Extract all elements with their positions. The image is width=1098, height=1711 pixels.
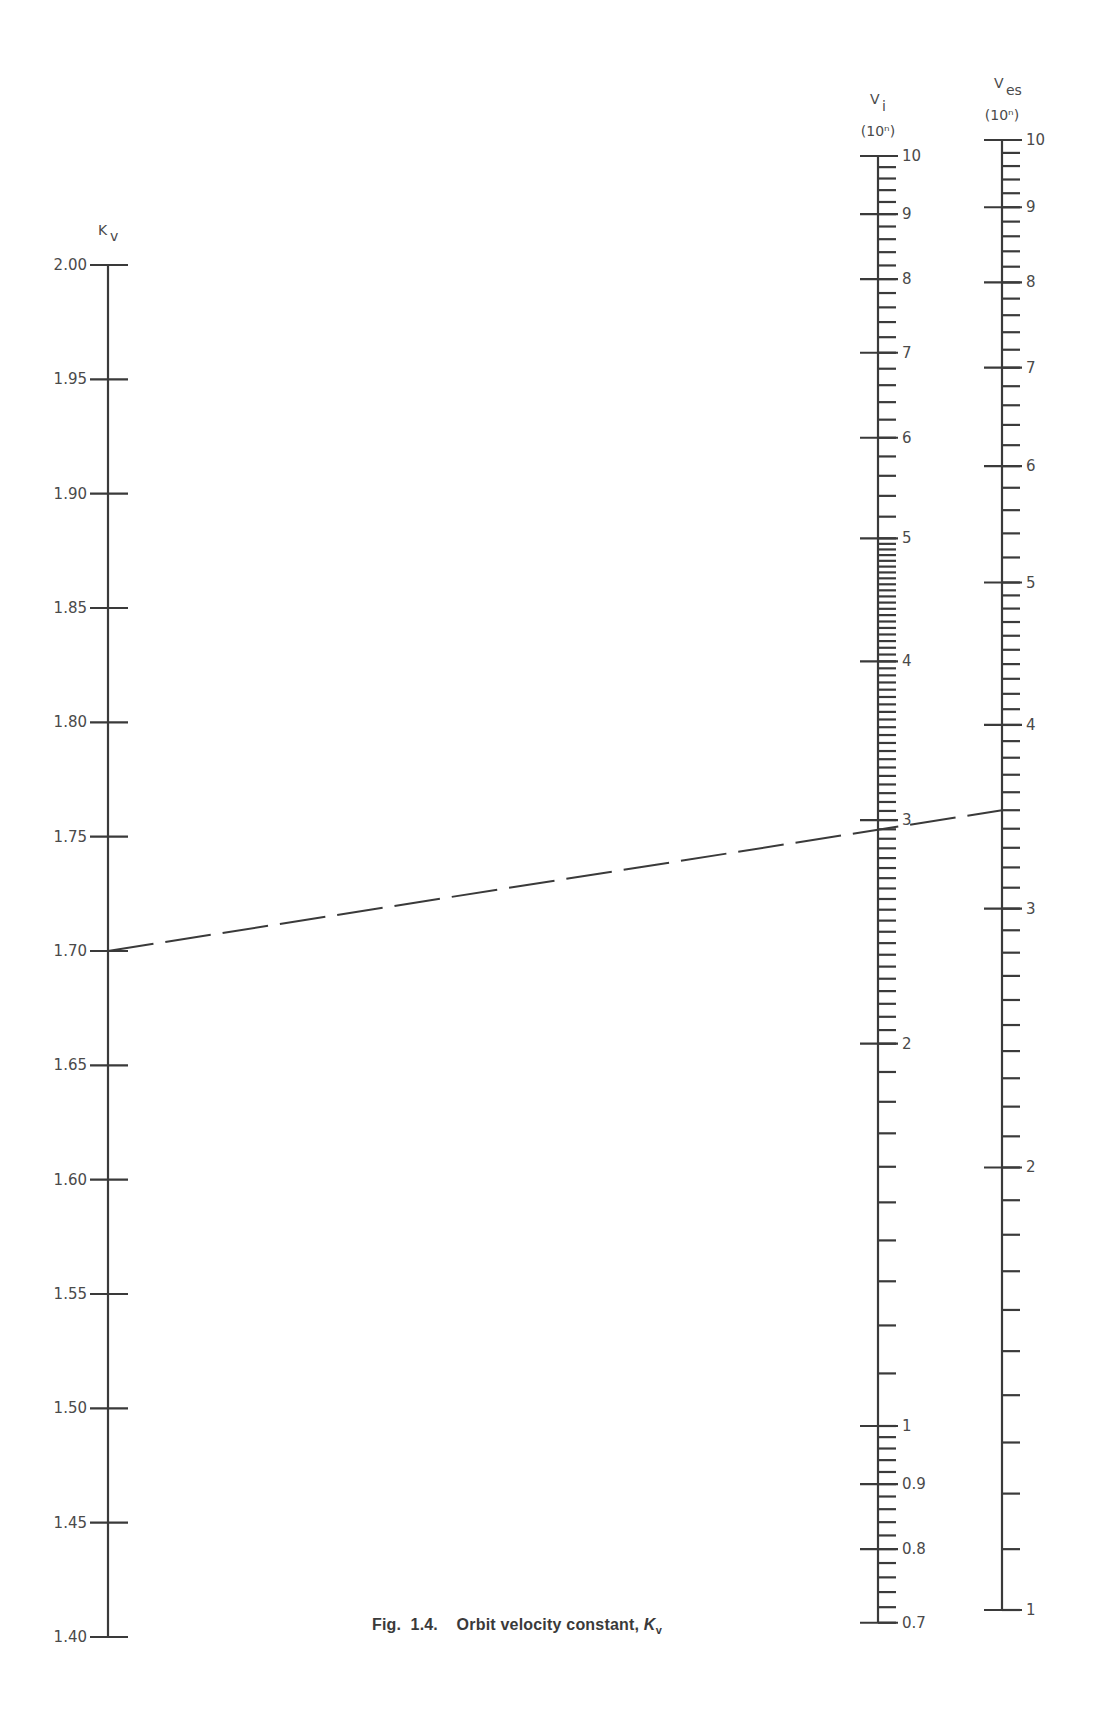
ves-axis-tick-label: 3	[1026, 900, 1036, 918]
vi-axis-tick-label: 10	[902, 147, 921, 165]
ves-axis-axis-label-sub: es	[1006, 82, 1022, 98]
kv-tick-label: 1.70	[54, 942, 87, 960]
kv-tick-label: 1.60	[54, 1171, 87, 1189]
caption-symbol: K	[644, 1616, 656, 1633]
vi-axis-tick-label: 8	[902, 270, 912, 288]
ves-axis-tick-label: 2	[1026, 1158, 1036, 1176]
vi-axis-tick-label: 9	[902, 205, 912, 223]
vi-axis-tick-label: 7	[902, 344, 912, 362]
nomogram: 2.001.951.901.851.801.751.701.651.601.55…	[0, 0, 1098, 1711]
ves-axis-tick-label: 10	[1026, 131, 1045, 149]
vi-axis-tick-label: 3	[902, 811, 912, 829]
figure-caption: Fig. 1.4. Orbit velocity constant, Kv	[372, 1616, 662, 1636]
kv-tick-label: 1.65	[54, 1056, 87, 1074]
ves-axis-axis-unit: (10ⁿ)	[985, 107, 1019, 123]
kv-tick-label: 1.45	[54, 1514, 87, 1532]
kv-tick-label: 1.55	[54, 1285, 87, 1303]
ves-axis-tick-label: 5	[1026, 574, 1036, 592]
vi-axis-tick-label: 0.7	[902, 1614, 926, 1632]
vi-axis-axis-unit: (10ⁿ)	[861, 123, 895, 139]
vi-axis-axis-label: V	[870, 91, 880, 107]
ves-axis-axis-label: V	[994, 75, 1004, 91]
vi-axis-tick-label: 0.8	[902, 1540, 926, 1558]
ves-axis-tick-label: 7	[1026, 359, 1036, 377]
kv-tick-label: 1.75	[54, 828, 87, 846]
kv-axis: 2.001.951.901.851.801.751.701.651.601.55…	[54, 222, 128, 1646]
example-isopleth-dashed-line	[108, 810, 1002, 951]
kv-tick-label: 1.85	[54, 599, 87, 617]
vi-axis-tick-label: 1	[902, 1417, 912, 1435]
kv-axis-label: K	[98, 222, 108, 238]
ves-axis-tick-label: 6	[1026, 457, 1036, 475]
vi-axis-tick-label: 2	[902, 1035, 912, 1053]
kv-tick-label: 1.40	[54, 1628, 87, 1646]
caption-subscript: v	[656, 1624, 662, 1636]
ves-axis-tick-label: 9	[1026, 198, 1036, 216]
kv-tick-label: 1.50	[54, 1399, 87, 1417]
vi-axis-tick-label: 6	[902, 429, 912, 447]
ves-axis: 10987654321Ves(10ⁿ)	[984, 75, 1045, 1619]
kv-tick-label: 1.80	[54, 713, 87, 731]
vi-axis-axis-label-sub: i	[882, 98, 886, 114]
vi-axis: 109876543210.90.80.7Vi(10ⁿ)	[860, 91, 926, 1632]
vi-axis-tick-label: 0.9	[902, 1475, 926, 1493]
ves-axis-tick-label: 1	[1026, 1601, 1036, 1619]
caption-text: Fig. 1.4. Orbit velocity constant,	[372, 1616, 644, 1633]
kv-tick-label: 1.90	[54, 485, 87, 503]
ves-axis-tick-label: 4	[1026, 716, 1036, 734]
kv-axis-label-sub: v	[110, 228, 118, 244]
kv-tick-label: 2.00	[54, 256, 87, 274]
kv-tick-label: 1.95	[54, 370, 87, 388]
vi-axis-tick-label: 4	[902, 652, 912, 670]
ves-axis-tick-label: 8	[1026, 273, 1036, 291]
vi-axis-tick-label: 5	[902, 529, 912, 547]
